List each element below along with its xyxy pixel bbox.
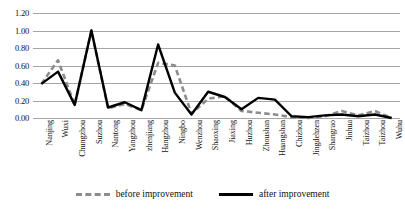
y-axis-tick-label: 0.20 [15, 96, 29, 106]
x-axis-tick-label-text: Shangrao [328, 120, 337, 150]
legend-swatch-dashed-icon [76, 193, 110, 196]
x-axis-tick-label: Nantong [111, 120, 120, 148]
x-axis-tick-label: Chizhou [295, 120, 304, 147]
x-axis-tick-label: Wuxi [61, 120, 70, 137]
x-axis-tick-label-text: Jinhua [345, 120, 354, 141]
plot-area [33, 13, 400, 118]
y-axis-tick-label: 0.80 [15, 43, 29, 53]
x-axis-tick-label-text: Shaoxing [211, 120, 220, 150]
x-axis-tick-label-text: Yangzhou [128, 120, 137, 152]
y-axis-tick-label: 1.20 [15, 8, 29, 18]
x-axis-tick-label: Chungzhou [78, 120, 87, 157]
line-chart: 1.201.000.800.600.400.200.00 NanjingWuxi… [0, 0, 405, 210]
legend-item[interactable]: after improvement [219, 189, 329, 199]
x-axis-tick-label: Suzhou [95, 120, 104, 144]
x-axis-tick-label: Jingdehzen [312, 120, 321, 156]
x-axis-tick-label-text: Wuhu [395, 120, 404, 139]
x-axis-tick-label-text: Chizhou [295, 120, 304, 147]
series-after-improvement [41, 31, 391, 119]
legend-label: before improvement [116, 189, 193, 199]
x-axis-tick-label: Yangzhou [128, 120, 137, 152]
x-axis-tick-labels: NanjingWuxiChungzhouSuzhouNantongYangzho… [33, 120, 400, 182]
x-axis-tick-label-text: Taizhou [378, 120, 387, 146]
x-axis-tick-label: Jiaxing [228, 120, 237, 143]
x-axis-tick-label-text: Chungzhou [78, 120, 87, 157]
chart-legend: before improvementafter improvement [0, 184, 405, 204]
y-axis-tick-label: 1.00 [15, 26, 29, 36]
legend-item[interactable]: before improvement [76, 189, 193, 199]
x-axis-tick-label: Huzhou [245, 120, 254, 145]
x-axis-tick-label: Taizhou [378, 120, 387, 146]
x-axis-tick-label: Taizhou [362, 120, 371, 146]
x-axis-tick-label-text: Nanjing [45, 120, 54, 146]
x-axis-tick-label-text: Zhoushan [262, 120, 271, 152]
x-axis-tick-label-text: Jingdehzen [312, 120, 321, 156]
x-axis-tick-label: Hangzhou [161, 120, 170, 153]
x-axis-tick-label-text: Wuxi [61, 120, 70, 137]
x-axis-tick-label: Ningbo [178, 120, 187, 144]
x-axis-tick-label-text: Huangshan [278, 120, 287, 156]
y-axis-tick-label: 0.60 [15, 61, 29, 71]
x-axis-tick-label: Jinhua [345, 120, 354, 141]
y-axis-tick-label: 0.40 [15, 78, 29, 88]
y-axis-tick-label: 0.00 [15, 113, 29, 123]
legend-swatch-solid-icon [219, 193, 253, 196]
x-axis-tick-label-text: Ningbo [178, 120, 187, 144]
x-axis-tick-label: Shaoxing [211, 120, 220, 150]
x-axis-tick-label: zhenjiang [145, 120, 154, 151]
x-axis-tick-label-text: Jiaxing [228, 120, 237, 143]
x-axis-tick-label: Nanjing [45, 120, 54, 146]
x-axis-tick-label-text: Taizhou [362, 120, 371, 146]
x-axis-tick-label-text: Huzhou [245, 120, 254, 145]
x-axis-tick-label: Wenzhou [195, 120, 204, 150]
x-axis-tick-label: Shangrao [328, 120, 337, 150]
x-axis-tick-label-text: Hangzhou [161, 120, 170, 153]
x-axis-tick-label: Huangshan [278, 120, 287, 156]
x-axis-tick-label-text: Wenzhou [195, 120, 204, 150]
series-layer [33, 13, 400, 118]
x-axis-tick-label-text: Suzhou [95, 120, 104, 144]
x-axis-tick-label-text: zhenjiang [145, 120, 154, 151]
legend-label: after improvement [259, 189, 329, 199]
y-axis-tick-labels: 1.201.000.800.600.400.200.00 [0, 0, 33, 130]
x-axis-tick-label: Wuhu [395, 120, 404, 139]
x-axis-tick-label-text: Nantong [111, 120, 120, 148]
x-axis-tick-label: Zhoushan [262, 120, 271, 152]
